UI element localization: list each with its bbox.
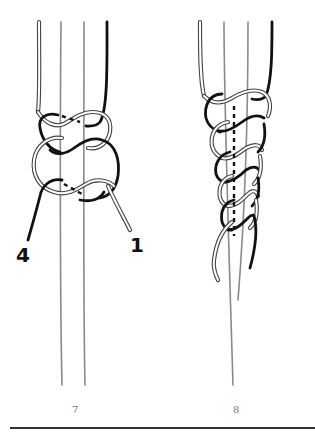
core-strand-right — [238, 22, 248, 300]
strand-label-1: 1 — [130, 235, 144, 255]
figure-7-caption: 7 — [72, 404, 78, 415]
page-divider — [10, 427, 315, 429]
spiral-rungs — [204, 90, 270, 236]
figure-7-flat-knot — [28, 22, 130, 385]
figure-8-caption: 8 — [233, 404, 239, 415]
strand-label-4: 4 — [16, 245, 30, 265]
knot-diagram-page: .hollow-out { fill: none; stroke: #444; … — [0, 0, 315, 437]
knot-illustrations: .hollow-out { fill: none; stroke: #444; … — [0, 0, 315, 437]
core-strand-right — [84, 22, 85, 385]
core-strand-left — [60, 22, 62, 385]
figure-8-spiral-knot — [200, 22, 272, 385]
